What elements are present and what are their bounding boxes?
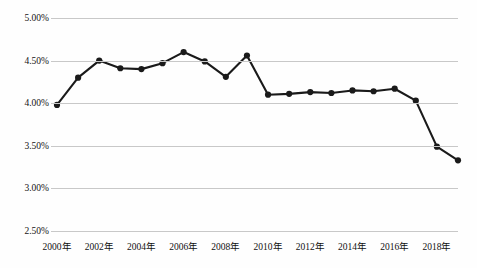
x-axis-labels: 2000年2002年2004年2006年2008年2010年2012年2014年… [57, 231, 458, 261]
x-axis-tick-label: 2014年 [338, 239, 367, 253]
y-axis-tick-label: 2.50% [0, 226, 49, 236]
data-point [455, 157, 461, 163]
y-axis-tick [51, 188, 57, 189]
x-axis-tick-label: 2006年 [169, 239, 198, 253]
data-point [392, 86, 398, 92]
x-axis-tick-label: 2000年 [43, 239, 72, 253]
data-point [349, 87, 355, 93]
y-axis-tick-label: 5.00% [0, 13, 49, 23]
gridline [57, 18, 458, 19]
data-point [223, 74, 229, 80]
gridline [57, 188, 458, 189]
y-axis-tick [51, 61, 57, 62]
gridline [57, 146, 458, 147]
y-axis-tick-label: 4.50% [0, 56, 49, 66]
plot-area [57, 18, 458, 231]
data-point [117, 65, 123, 71]
x-axis-tick-label: 2016年 [380, 239, 409, 253]
x-axis-tick-label: 2012年 [296, 239, 325, 253]
data-point [328, 90, 334, 96]
data-point [181, 49, 187, 55]
chart-title [0, 0, 477, 11]
y-axis-tick-label: 4.00% [0, 98, 49, 108]
data-point [138, 66, 144, 72]
y-axis-labels: 5.00%4.50%4.00%3.50%3.00%2.50% [0, 18, 57, 231]
data-point [265, 92, 271, 98]
gridline [57, 61, 458, 62]
data-point [307, 89, 313, 95]
x-axis-tick-label: 2008年 [211, 239, 240, 253]
x-axis-tick-label: 2010年 [254, 239, 283, 253]
gridline [57, 103, 458, 104]
data-point [244, 52, 250, 58]
x-axis-tick-label: 2018年 [422, 239, 451, 253]
data-point [286, 91, 292, 97]
y-axis-tick-label: 3.00% [0, 183, 49, 193]
x-axis-tick-label: 2004年 [127, 239, 156, 253]
line-chart: 5.00%4.50%4.00%3.50%3.00%2.50% 2000年2002… [0, 0, 477, 268]
y-axis-tick-label: 3.50% [0, 141, 49, 151]
y-axis-tick [51, 103, 57, 104]
data-point [75, 75, 81, 81]
y-axis-tick [51, 18, 57, 19]
y-axis-tick [51, 146, 57, 147]
series-line-layer [57, 18, 458, 231]
series-polyline [57, 52, 458, 160]
x-axis-tick-label: 2002年 [85, 239, 114, 253]
data-point [370, 88, 376, 94]
